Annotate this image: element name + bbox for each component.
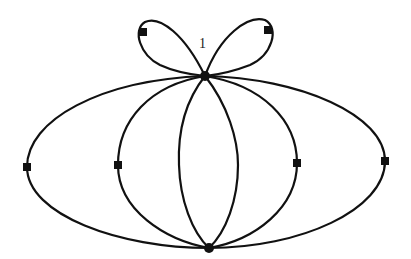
edge-inner-left	[179, 76, 209, 248]
edge-middle-left	[118, 76, 209, 248]
edge-middle-right	[205, 76, 297, 248]
loop-left	[139, 21, 205, 76]
marker-square	[139, 28, 147, 36]
marker-square	[293, 159, 301, 167]
loop-right	[205, 19, 273, 76]
vertex-top	[200, 71, 210, 81]
loop-label: 1	[199, 36, 206, 51]
edge-inner-right	[205, 76, 238, 248]
marker-square	[23, 163, 31, 171]
marker-square	[114, 161, 122, 169]
vertex-bottom	[204, 243, 214, 253]
marker-square	[264, 26, 272, 34]
graph-diagram: 1	[0, 0, 411, 259]
marker-square	[381, 157, 389, 165]
